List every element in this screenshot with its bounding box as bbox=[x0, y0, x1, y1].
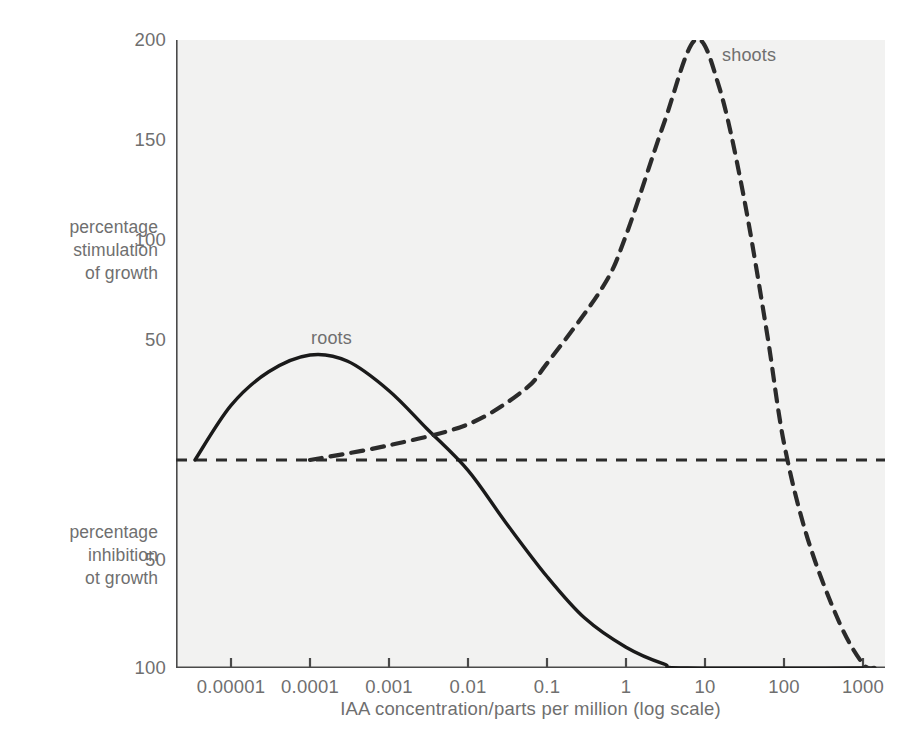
chart-plot-svg bbox=[176, 40, 885, 668]
ytick-label-200: 200 bbox=[104, 29, 166, 51]
y-axis-title-upper: percentagestimulationof growth bbox=[18, 216, 158, 285]
y-axis-title-lower: percentageinhibitionot growth bbox=[18, 521, 158, 590]
curve-label-roots: roots bbox=[311, 328, 352, 349]
ytick-label-150: 150 bbox=[104, 129, 166, 151]
curve-roots bbox=[195, 354, 863, 668]
curve-label-shoots: shoots bbox=[722, 45, 776, 66]
xtick-label-1: 0.0001 bbox=[281, 676, 339, 698]
xtick-label-4: 0.1 bbox=[534, 676, 560, 698]
x-axis-title: IAA concentration/parts per million (log… bbox=[176, 698, 885, 720]
xtick-label-0: 0.00001 bbox=[197, 676, 265, 698]
plot-area bbox=[176, 40, 885, 668]
ytick-label-50: 50 bbox=[104, 329, 166, 351]
xtick-label-8: 1000 bbox=[842, 676, 884, 698]
xtick-label-6: 10 bbox=[695, 676, 716, 698]
xtick-label-3: 0.01 bbox=[450, 676, 487, 698]
chart-figure: 200 150 100 50 50 100 0.00001 0.0001 0.0… bbox=[0, 0, 913, 735]
curve-shoots bbox=[310, 40, 875, 668]
xtick-label-5: 1 bbox=[621, 676, 632, 698]
xtick-label-7: 100 bbox=[768, 676, 799, 698]
xtick-label-2: 0.001 bbox=[365, 676, 412, 698]
ytick-label-minus100: 100 bbox=[104, 657, 166, 679]
